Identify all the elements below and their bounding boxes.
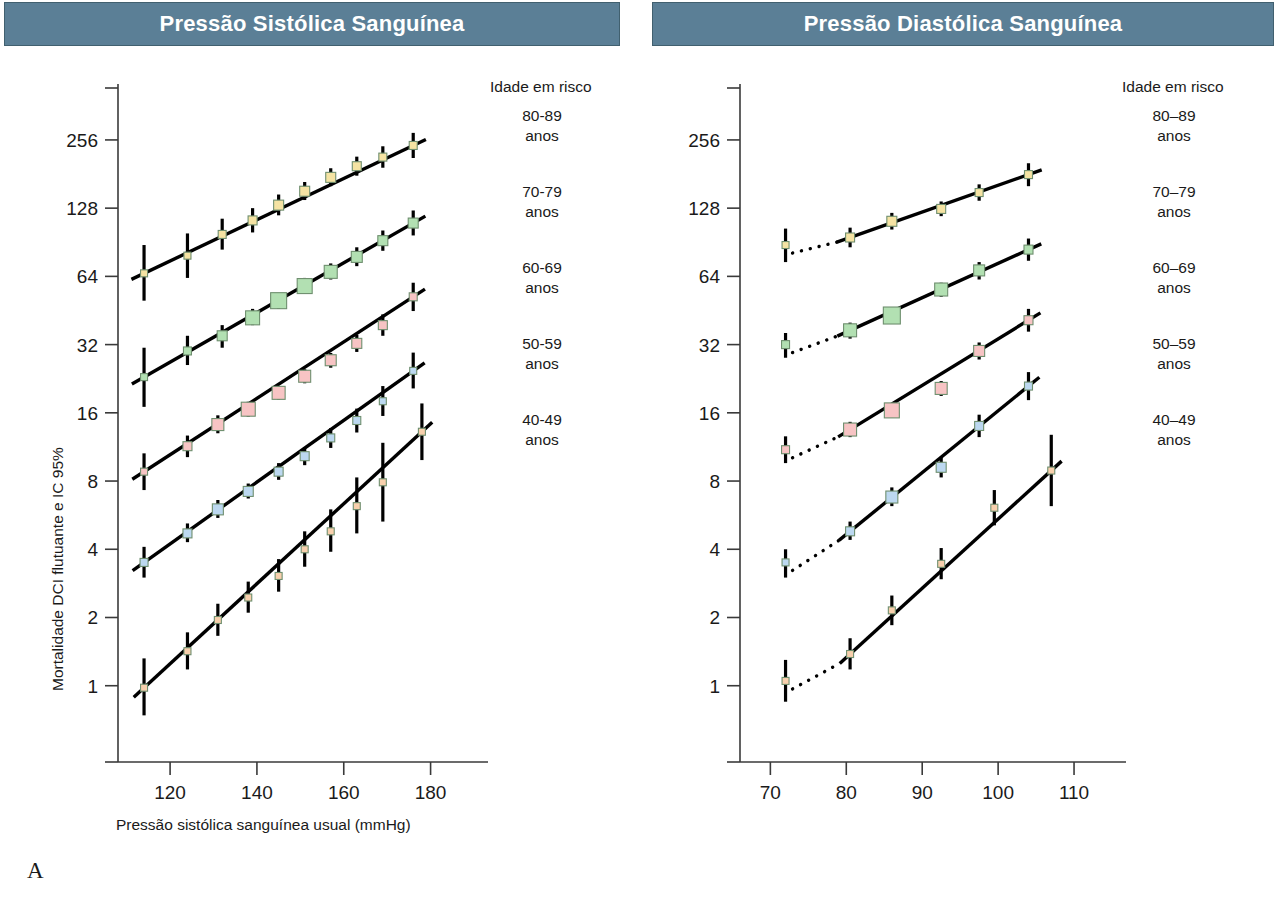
y-tick-label: 256 bbox=[688, 130, 720, 151]
data-point-marker bbox=[141, 270, 148, 277]
data-point-marker bbox=[991, 504, 998, 511]
data-point-marker bbox=[184, 648, 191, 655]
y-tick-label: 32 bbox=[77, 335, 98, 356]
x-tick-label: 70 bbox=[760, 782, 781, 803]
y-tick-label: 8 bbox=[709, 471, 720, 492]
y-tick-label: 128 bbox=[66, 198, 98, 219]
data-point-marker bbox=[272, 386, 285, 399]
x-tick-label: 100 bbox=[982, 782, 1014, 803]
legend-item-2: 70–79anos bbox=[1128, 182, 1220, 222]
data-point-marker bbox=[299, 370, 311, 382]
data-point-marker bbox=[183, 529, 192, 538]
data-point-marker bbox=[351, 251, 362, 262]
y-tick-label: 4 bbox=[709, 539, 720, 560]
legend-item-unit: anos bbox=[496, 126, 588, 146]
panel-a-y-axis-label: Mortalidade DCI flutuante e IC 95% bbox=[48, 447, 67, 691]
legend-item-range: 40–49 bbox=[1128, 410, 1220, 430]
legend-item-unit: anos bbox=[496, 430, 588, 450]
legend-item-3: 60-69anos bbox=[496, 258, 588, 298]
data-point-marker bbox=[141, 468, 148, 475]
figure-root: Pressão Sistólica Sanguínea Pressão Dias… bbox=[0, 0, 1278, 912]
series-2 bbox=[782, 239, 1042, 358]
legend-item-range: 40-49 bbox=[496, 410, 588, 430]
legend-item-range: 80–89 bbox=[1128, 106, 1220, 126]
y-tick-label: 16 bbox=[77, 403, 98, 424]
data-point-marker bbox=[782, 446, 790, 454]
x-tick-label: 160 bbox=[328, 782, 360, 803]
panel-b-title-banner: Pressão Diastólica Sanguínea bbox=[652, 2, 1274, 46]
data-point-marker bbox=[183, 442, 192, 451]
data-point-marker bbox=[248, 216, 257, 225]
panel-a-title-banner: Pressão Sistólica Sanguínea bbox=[4, 2, 620, 46]
data-point-marker bbox=[246, 311, 260, 325]
y-tick-label: 16 bbox=[699, 403, 720, 424]
legend-item-4: 50-59anos bbox=[496, 334, 588, 374]
legend-item-unit: anos bbox=[1128, 430, 1220, 450]
legend-item-range: 60-69 bbox=[496, 258, 588, 278]
y-tick-label: 2 bbox=[709, 607, 720, 628]
data-point-marker bbox=[936, 462, 946, 472]
series-3 bbox=[132, 283, 425, 490]
data-point-marker bbox=[353, 503, 360, 510]
data-point-marker bbox=[1024, 245, 1033, 254]
y-tick-label: 2 bbox=[87, 607, 98, 628]
data-point-marker bbox=[409, 293, 417, 301]
data-point-marker bbox=[1024, 316, 1033, 325]
data-point-marker bbox=[274, 467, 283, 476]
trend-line-dotted bbox=[793, 663, 840, 688]
data-point-marker bbox=[1024, 382, 1032, 390]
data-point-marker bbox=[218, 230, 226, 238]
legend-item-unit: anos bbox=[1128, 126, 1220, 146]
data-point-marker bbox=[327, 528, 334, 535]
x-tick-label: 120 bbox=[154, 782, 186, 803]
legend-item-range: 60–69 bbox=[1128, 258, 1220, 278]
x-tick-label: 80 bbox=[836, 782, 857, 803]
data-point-marker bbox=[846, 233, 855, 242]
data-point-marker bbox=[884, 403, 899, 418]
legend-title: Idade em risco bbox=[1122, 78, 1224, 96]
data-point-marker bbox=[212, 419, 224, 431]
data-point-marker bbox=[183, 347, 191, 355]
data-point-marker bbox=[352, 338, 362, 348]
legend-item-3: 60–69anos bbox=[1128, 258, 1220, 298]
legend-item-range: 80-89 bbox=[496, 106, 588, 126]
data-point-marker bbox=[844, 423, 857, 436]
panel-a-x-axis-label: Pressão sistólica sanguínea usual (mmHg) bbox=[116, 816, 411, 834]
data-point-marker bbox=[935, 382, 947, 394]
data-point-marker bbox=[140, 558, 148, 566]
data-point-marker bbox=[935, 283, 948, 296]
data-point-marker bbox=[886, 491, 898, 503]
y-tick-label: 8 bbox=[87, 471, 98, 492]
trend-line bbox=[838, 313, 1040, 437]
data-point-marker bbox=[379, 479, 386, 486]
legend-item-1: 80-89anos bbox=[496, 106, 588, 146]
data-point-marker bbox=[782, 677, 789, 684]
trend-line-dotted bbox=[793, 242, 837, 253]
data-point-marker bbox=[271, 293, 287, 309]
x-tick-label: 110 bbox=[1059, 782, 1089, 803]
data-point-marker bbox=[1048, 467, 1055, 474]
data-point-marker bbox=[352, 162, 361, 171]
trend-line bbox=[839, 377, 1039, 540]
data-point-marker bbox=[141, 684, 148, 691]
legend-item-range: 50-59 bbox=[496, 334, 588, 354]
panel-a-title-text: Pressão Sistólica Sanguínea bbox=[160, 11, 465, 37]
panel-b-title-text: Pressão Diastólica Sanguínea bbox=[804, 11, 1123, 37]
data-point-marker bbox=[214, 616, 221, 623]
data-point-marker bbox=[847, 651, 854, 658]
data-point-marker bbox=[844, 324, 857, 337]
data-point-marker bbox=[300, 186, 310, 196]
y-tick-label: 256 bbox=[66, 130, 98, 151]
data-point-marker bbox=[883, 307, 900, 324]
data-point-marker bbox=[141, 374, 148, 381]
x-tick-label: 140 bbox=[241, 782, 273, 803]
plot-area: 1248163264128256708090100110 bbox=[688, 84, 1126, 803]
y-tick-label: 64 bbox=[77, 266, 99, 287]
legend-item-1: 80–89anos bbox=[1128, 106, 1220, 146]
data-point-marker bbox=[418, 428, 425, 435]
data-point-marker bbox=[326, 172, 336, 182]
legend-item-range: 50–59 bbox=[1128, 334, 1220, 354]
legend-item-range: 70–79 bbox=[1128, 182, 1220, 202]
legend-item-unit: anos bbox=[496, 202, 588, 222]
legend-item-5: 40–49anos bbox=[1128, 410, 1220, 450]
